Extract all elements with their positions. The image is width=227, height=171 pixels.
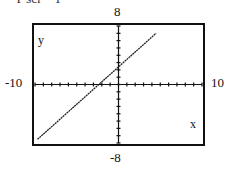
- plot-line: [38, 33, 157, 139]
- graph-plot: [0, 0, 227, 171]
- axes: [35, 26, 202, 143]
